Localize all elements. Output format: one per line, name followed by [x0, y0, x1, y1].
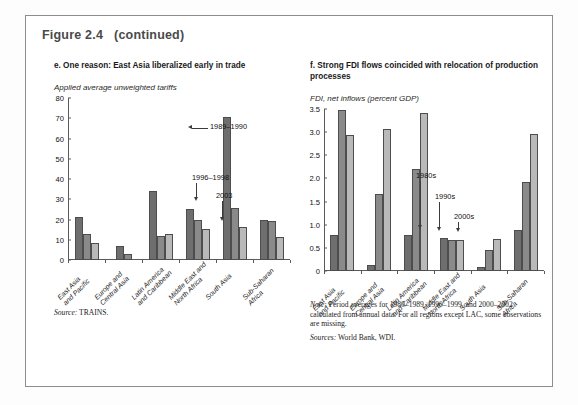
tariffs-category-label: Europe andCentral Asia [92, 269, 131, 308]
anno-1996-1998: 1996–1998 [192, 173, 229, 182]
tariffs-bar [91, 243, 99, 260]
fdi-bar [514, 230, 522, 271]
anno-1996-1998-arrowhead [194, 197, 198, 201]
tariffs-ytick-mark [68, 239, 71, 240]
panel-f-footnotes: Note: Period averages for 1980–1989, 199… [310, 300, 542, 346]
tariffs-bar [260, 220, 268, 261]
figure-continued: (continued) [114, 28, 184, 42]
fdi-ytick-label: 1.5 [298, 197, 324, 206]
tariffs-bar-group [253, 98, 290, 260]
fdi-ytick-label: 0.5 [298, 243, 324, 252]
fdi-ytick-mark [324, 155, 327, 156]
fdi-bar-group [471, 109, 508, 271]
source-label-e: Source: [54, 308, 77, 317]
fdi-xtick-mark [544, 271, 545, 274]
tariffs-bar [194, 220, 202, 260]
figure-page: Figure 2.4 (continued) e. One reason: Ea… [0, 0, 578, 405]
fdi-plot: 00.51.01.52.02.53.03.51980s1990s2000s [298, 109, 548, 271]
tariffs-plot-area [68, 98, 290, 260]
fdi-bar [440, 238, 448, 271]
fdi-bar [448, 240, 456, 271]
fdi-ytick-label: 2.5 [298, 151, 324, 160]
anno-1980s-arrowhead [418, 225, 422, 229]
tariffs-bar [202, 229, 210, 260]
panel-e-title: e. One reason: East Asia liberalized ear… [54, 60, 284, 71]
anno-1990s: 1990s [435, 192, 455, 201]
fdi-ytick-mark [324, 132, 327, 133]
fdi-ytick-mark [324, 109, 327, 110]
panel-fdi: f. Strong FDI flows coincided with reloc… [298, 60, 548, 380]
panel-f-axis-caption: FDI, net inflows (percent GDP) [310, 94, 548, 103]
panel-f-title: f. Strong FDI flows coincided with reloc… [310, 60, 540, 82]
tariffs-bar [116, 246, 124, 260]
tariffs-bar [165, 234, 173, 260]
tariffs-bar-group [105, 98, 142, 260]
tariffs-ytick-label: 30 [42, 195, 68, 204]
tariffs-ytick-mark [68, 138, 71, 139]
fdi-ytick-mark [324, 247, 327, 248]
tariffs-ytick-mark [68, 179, 71, 180]
note-label: Note: [310, 300, 327, 309]
figure-box: Figure 2.4 (continued) e. One reason: Ea… [25, 15, 553, 387]
fdi-bar [330, 235, 338, 271]
panel-tariffs: e. One reason: East Asia liberalized ear… [42, 60, 294, 380]
tariffs-category-label: East Asiaand Pacific [55, 272, 91, 308]
panel-e-axis-caption: Applied average unweighted tariffs [54, 83, 294, 92]
figure-title: Figure 2.4 (continued) [42, 28, 184, 42]
sources-label: Sources: [310, 333, 336, 342]
tariffs-ytick-label: 70 [42, 114, 68, 123]
fdi-bar-group [324, 109, 361, 271]
fdi-bar [383, 129, 391, 271]
note-value: Period averages for 1980–1989, 1990–1999… [310, 300, 541, 328]
fdi-bar-groups [324, 109, 544, 271]
fdi-ytick-label: 3.0 [298, 128, 324, 137]
anno-1989-1990-leader-line [192, 128, 208, 129]
tariffs-ytick-mark [68, 118, 71, 119]
figure-number: Figure 2.4 [42, 28, 103, 42]
anno-1980s: 1980s [416, 171, 436, 180]
tariffs-bar-group [68, 98, 105, 260]
tariffs-category-label: Latin Americaand Caribbean [129, 263, 173, 307]
tariffs-bar-group [142, 98, 179, 260]
fdi-bar [456, 240, 464, 271]
tariffs-bar [186, 209, 194, 260]
fdi-bar [346, 135, 354, 271]
tariffs-ytick-label: 0 [42, 256, 68, 265]
fdi-bar [522, 182, 530, 271]
panel-e-footnotes: Source: TRAINS. [54, 308, 288, 322]
tariffs-bar [231, 208, 239, 260]
note-paragraph: Note: Period averages for 1980–1989, 199… [310, 300, 542, 329]
tariffs-category-label: Middle East andNorth Africa [166, 260, 213, 307]
fdi-bar [493, 239, 501, 271]
anno-2003: 2003 [216, 191, 232, 200]
fdi-bar-group [397, 109, 434, 271]
fdi-bar [485, 250, 493, 271]
tariffs-ytick-label: 80 [42, 94, 68, 103]
fdi-bar [412, 169, 420, 271]
anno-1980s-leader-line [420, 181, 421, 225]
tariffs-ytick-label: 40 [42, 175, 68, 184]
fdi-bar [375, 194, 383, 271]
anno-2003-leader-line [222, 201, 223, 217]
sources-value: World Bank, WDI. [336, 333, 395, 342]
tariffs-plot: 010203040506070801989–19901996–19982003 [42, 98, 294, 260]
fdi-bar-group [361, 109, 398, 271]
tariffs-bar [268, 221, 276, 260]
anno-1989-1990: 1989–1990 [210, 122, 247, 131]
fdi-bar [338, 110, 346, 271]
tariffs-bar [223, 117, 231, 260]
fdi-plot-area [324, 109, 544, 271]
fdi-ytick-label: 3.5 [298, 105, 324, 114]
source-value-e: TRAINS. [79, 308, 108, 317]
tariffs-bar [149, 191, 157, 260]
anno-2000s-arrowhead [456, 228, 460, 232]
fdi-ytick-mark [324, 178, 327, 179]
tariffs-category-label: Sub-SaharanAfrica [240, 267, 281, 308]
tariffs-ytick-mark [68, 199, 71, 200]
tariffs-bar-groups [68, 98, 290, 260]
tariffs-bar [83, 234, 91, 260]
tariffs-ytick-mark [68, 98, 71, 99]
fdi-bar [530, 134, 538, 271]
fdi-bar-group [507, 109, 544, 271]
anno-2003-arrowhead [220, 217, 224, 221]
